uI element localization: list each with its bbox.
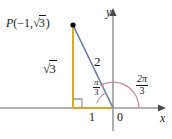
point-p-label: P(−1,√3) [6,17,50,29]
standard-angle-denominator: 3 [136,86,148,97]
y-axis-label: y [106,6,111,18]
origin-label: 0 [117,111,123,123]
right-angle-marker [73,99,82,108]
point-x-value: −1, [17,16,33,30]
point-y-radical: √3 [33,17,46,29]
standard-angle-numerator: 2π [136,74,148,86]
vertical-leg-radicand: 3 [49,60,57,76]
standard-angle-label: 2π 3 [136,74,148,96]
point-close-paren: ) [46,16,50,30]
trigonometry-reference-triangle-figure: P(−1,√3) √3 2 1 0 x y π 3 2π 3 [0,0,172,139]
point-p-marker [70,22,75,27]
standard-angle-fraction: 2π 3 [136,74,148,96]
horizontal-leg-label: 1 [89,111,95,123]
reference-angle-fraction: π 3 [93,78,100,98]
vertical-leg-label: √3 [43,62,57,75]
reference-angle-denominator: 3 [93,88,100,97]
hypotenuse-label: 2 [94,55,101,68]
radicand-value: 3 [39,15,46,30]
reference-angle-label: π 3 [93,78,100,98]
vertical-leg-radical: √3 [43,62,57,75]
x-axis-label: x [160,112,165,124]
